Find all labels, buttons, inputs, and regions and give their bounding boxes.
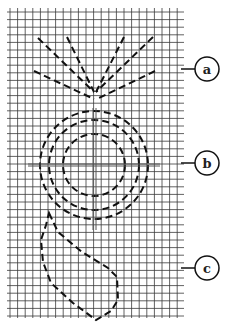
- callout-c: c: [181, 256, 219, 280]
- callout-label-c: c: [203, 261, 211, 276]
- callout-label-a: a: [203, 62, 212, 77]
- callout-label-b: b: [202, 156, 211, 171]
- shape-a-fan: [34, 37, 155, 99]
- diagram-canvas: a b c: [0, 0, 242, 326]
- shape-c-teardrop: [41, 213, 118, 320]
- callout-b: b: [181, 151, 219, 175]
- callout-a: a: [181, 57, 219, 81]
